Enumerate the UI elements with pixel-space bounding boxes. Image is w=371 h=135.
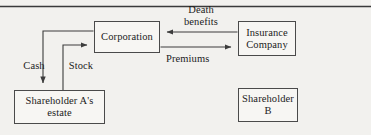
node-shareholder-b[interactable]: Shareholder B (238, 88, 298, 122)
node-insurance-company[interactable]: Insurance Company (238, 21, 296, 56)
edge-label-stock: Stock (62, 60, 100, 72)
node-insurance-company-label: Insurance Company (244, 27, 290, 51)
node-shareholder-a-estate-label: Shareholder A's estate (24, 95, 96, 119)
edge-label-cash: Cash (17, 60, 51, 72)
node-corporation[interactable]: Corporation (94, 21, 160, 53)
node-shareholder-b-label: Shareholder B (240, 93, 296, 117)
node-shareholder-a-estate[interactable]: Shareholder A's estate (14, 90, 105, 124)
edge-label-premiums: Premiums (166, 53, 222, 65)
node-corporation-label: Corporation (99, 31, 155, 43)
edge-cash (43, 31, 94, 83)
diagram-canvas: Corporation Insurance Company Shareholde… (0, 0, 371, 135)
edge-label-death-benefits: Death benefits (168, 4, 234, 27)
